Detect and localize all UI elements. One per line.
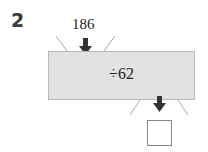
answer-box[interactable] xyxy=(147,120,172,146)
output-arrow-layer xyxy=(0,0,208,152)
output-arrow-icon xyxy=(153,96,166,112)
